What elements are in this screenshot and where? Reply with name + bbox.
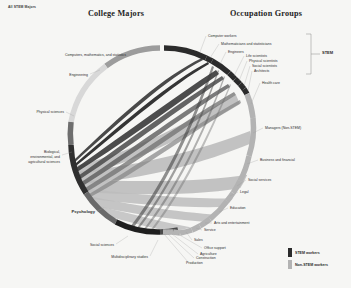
legend-label-non-stem: Non-STEM workers bbox=[295, 263, 328, 267]
legend-item-stem: STEM workers bbox=[288, 248, 348, 257]
occ-arc-office-support bbox=[173, 232, 180, 233]
legend-item-non-stem: Non-STEM workers bbox=[288, 260, 348, 269]
occ-label-arts-entertainment: Arts and entertainment bbox=[214, 221, 249, 225]
legend-swatch-non-stem bbox=[288, 260, 292, 269]
occ-arc-mathematicians bbox=[206, 58, 212, 61]
major-arc-physical-sciences bbox=[70, 122, 71, 145]
legend-swatch-stem bbox=[288, 248, 292, 257]
major-label-biological: Biological, bbox=[44, 150, 60, 154]
major-label-engineering: Engineering bbox=[69, 73, 88, 77]
chord-diagram: Computers, mathematics, and statistics E… bbox=[0, 0, 351, 288]
occ-label-physical-scientists: Physical scientists bbox=[249, 59, 278, 63]
svg-text:environmental, and: environmental, and bbox=[30, 155, 60, 159]
occ-arc-physical-scientists bbox=[235, 79, 240, 84]
stem-bracket-label: STEM bbox=[322, 50, 333, 55]
major-label-multidisciplinary: Multidisciplinary studies bbox=[111, 255, 148, 259]
legend-label-stem: STEM workers bbox=[295, 251, 320, 255]
occ-arc-legal bbox=[227, 193, 233, 201]
occ-label-production: Production bbox=[186, 261, 203, 265]
occ-label-life-scientists: Life scientists bbox=[246, 54, 267, 58]
occ-label-service: Service bbox=[204, 228, 216, 232]
occ-label-construction: Construction bbox=[196, 256, 216, 260]
occ-label-social-services: Social services bbox=[248, 178, 272, 182]
occ-label-sales: Sales bbox=[194, 238, 203, 242]
major-label-social-sciences: Social sciences bbox=[90, 243, 114, 247]
major-label-physical-sciences: Physical sciences bbox=[36, 110, 64, 114]
occ-label-health-care: Health care bbox=[262, 81, 280, 85]
major-arc-computers bbox=[106, 48, 160, 66]
chord-ribbons bbox=[74, 58, 253, 283]
occ-label-computer-workers: Computer workers bbox=[208, 34, 237, 38]
legend: STEM workers Non-STEM workers bbox=[288, 248, 348, 272]
occ-label-architects: Architects bbox=[254, 69, 270, 73]
occ-label-social-scientists: Social scientists bbox=[252, 64, 277, 68]
svg-text:agricultural sciences: agricultural sciences bbox=[28, 160, 60, 164]
occ-label-business-financial: Business and financial bbox=[260, 158, 295, 162]
occ-arc-sales bbox=[180, 230, 192, 233]
stem-bracket bbox=[306, 34, 320, 74]
occ-label-legal: Legal bbox=[240, 190, 249, 194]
occ-arc-computer-workers bbox=[164, 48, 206, 58]
occ-arc-social-scientists bbox=[240, 84, 244, 89]
occ-arc-health-care bbox=[247, 94, 253, 118]
major-label-psychology: Psychology bbox=[71, 209, 95, 214]
major-label-computers: Computers, mathematics, and statistics bbox=[65, 53, 126, 57]
occ-label-education: Education bbox=[230, 206, 246, 210]
occ-label-managers: Managers (Non-STEM) bbox=[265, 126, 301, 130]
occ-label-engineers: Engineers bbox=[228, 50, 244, 54]
occ-arc-architects bbox=[244, 89, 247, 94]
occ-label-office-support: Office support bbox=[204, 246, 226, 250]
chart-canvas: All STEM Majors College Majors Occupatio… bbox=[0, 0, 351, 288]
occ-label-mathematicians: Mathematicians and statisticians bbox=[221, 42, 272, 46]
